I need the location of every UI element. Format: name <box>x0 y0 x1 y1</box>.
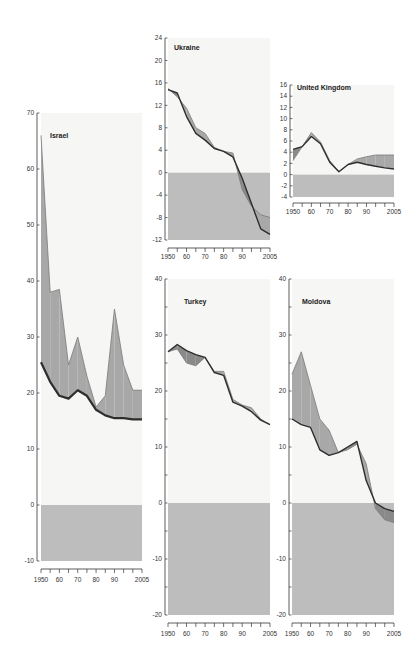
negative-zone <box>292 503 394 615</box>
y-tick-label: 12 <box>280 104 288 111</box>
chart-title: Israel <box>50 132 68 139</box>
y-tick-label: 50 <box>27 221 35 228</box>
y-tick-label: 0 <box>30 501 34 508</box>
y-tick-label: 20 <box>27 389 35 396</box>
x-tick-label: 2005 <box>387 208 402 215</box>
small-multiples-chart: 706050403020100-101950607080902005Israel… <box>0 0 417 668</box>
negative-zone <box>41 505 142 561</box>
x-tick-label: 80 <box>92 576 100 583</box>
negative-zone <box>168 173 270 240</box>
y-tick-label: -4 <box>156 191 162 198</box>
y-tick-label: 8 <box>158 124 162 131</box>
x-tick-label: 1950 <box>286 208 301 215</box>
x-tick-label: 1950 <box>161 630 176 637</box>
x-tick-label: 1950 <box>285 630 300 637</box>
y-tick-label: 10 <box>279 443 287 450</box>
x-tick-label: 2005 <box>387 630 402 637</box>
chart-title: United Kingdom <box>297 84 351 92</box>
y-tick-label: 14 <box>280 92 288 99</box>
x-tick-label: 70 <box>201 630 209 637</box>
chart-title: Ukraine <box>174 44 200 51</box>
band-segment <box>50 289 59 395</box>
x-tick-label: 70 <box>326 208 334 215</box>
band-segment <box>133 390 142 419</box>
x-tick-label: 70 <box>325 630 333 637</box>
x-tick-label: 2005 <box>135 576 150 583</box>
y-tick-label: 4 <box>283 148 287 155</box>
y-tick-label: 24 <box>155 34 163 41</box>
chart-title: Turkey <box>184 298 207 306</box>
y-tick-label: 8 <box>283 126 287 133</box>
x-tick-label: 80 <box>344 208 352 215</box>
y-tick-label: 40 <box>27 277 35 284</box>
chart-panel-moldova: 403020100-10-201950607080902005Moldova <box>277 275 402 637</box>
chart-panel-ukraine: 24201612840-4-8-121950607080902005Ukrain… <box>153 34 278 260</box>
x-tick-label: 1950 <box>34 576 49 583</box>
x-tick-label: 90 <box>111 576 119 583</box>
y-tick-label: 0 <box>283 171 287 178</box>
x-tick-label: 60 <box>307 630 315 637</box>
x-tick-label: 70 <box>201 253 209 260</box>
y-tick-label: -20 <box>277 611 287 618</box>
y-tick-label: 70 <box>27 109 35 116</box>
y-tick-label: -20 <box>153 611 163 618</box>
x-tick-label: 80 <box>220 253 228 260</box>
chart-panel-uk: 1614121086420-2-41950607080902005United … <box>280 81 402 215</box>
y-tick-label: 6 <box>283 137 287 144</box>
y-tick-label: -8 <box>156 214 162 221</box>
y-tick-label: 0 <box>158 169 162 176</box>
y-tick-label: 40 <box>155 275 163 282</box>
x-tick-label: 80 <box>344 630 352 637</box>
y-tick-label: 16 <box>155 79 163 86</box>
chart-title: Moldova <box>302 298 330 305</box>
y-tick-label: 30 <box>279 331 287 338</box>
y-tick-label: 0 <box>282 499 286 506</box>
x-tick-label: 90 <box>363 630 371 637</box>
y-tick-label: -4 <box>281 193 287 200</box>
y-tick-label: -2 <box>281 182 287 189</box>
y-tick-label: 12 <box>155 102 163 109</box>
y-tick-label: 20 <box>155 387 163 394</box>
x-tick-label: 60 <box>183 630 191 637</box>
x-tick-label: 60 <box>183 253 191 260</box>
y-tick-label: 30 <box>27 333 35 340</box>
y-tick-label: 2 <box>283 160 287 167</box>
band-segment <box>385 155 394 169</box>
plot-background <box>168 279 270 503</box>
chart-panel-israel: 706050403020100-101950607080902005Israel <box>25 109 150 583</box>
x-tick-label: 60 <box>308 208 316 215</box>
negative-zone <box>293 175 394 197</box>
x-tick-label: 80 <box>220 630 228 637</box>
y-tick-label: 40 <box>279 275 287 282</box>
x-tick-label: 70 <box>74 576 82 583</box>
y-tick-label: 20 <box>155 57 163 64</box>
y-tick-label: 0 <box>158 499 162 506</box>
y-tick-label: -10 <box>153 555 163 562</box>
x-tick-label: 2005 <box>263 253 278 260</box>
x-tick-label: 1950 <box>161 253 176 260</box>
y-tick-label: 20 <box>279 387 287 394</box>
negative-zone <box>168 503 270 615</box>
x-tick-label: 90 <box>239 630 247 637</box>
x-tick-label: 2005 <box>263 630 278 637</box>
chart-panel-turkey: 403020100-10-201950607080902005Turkey <box>153 275 278 637</box>
y-tick-label: -12 <box>153 236 163 243</box>
y-tick-label: 10 <box>155 443 163 450</box>
x-tick-label: 90 <box>239 253 247 260</box>
x-tick-label: 60 <box>56 576 64 583</box>
y-tick-label: -10 <box>25 557 35 564</box>
y-tick-label: 10 <box>27 445 35 452</box>
y-tick-label: 60 <box>27 165 35 172</box>
y-tick-label: 10 <box>280 115 288 122</box>
y-tick-label: 4 <box>158 146 162 153</box>
y-tick-label: 16 <box>280 81 288 88</box>
y-tick-label: 30 <box>155 331 163 338</box>
x-tick-label: 90 <box>363 208 371 215</box>
y-tick-label: -10 <box>277 555 287 562</box>
